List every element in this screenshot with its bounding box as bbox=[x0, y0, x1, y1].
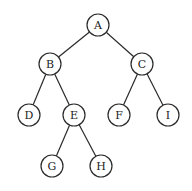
node-b: B bbox=[39, 53, 61, 75]
node-h: H bbox=[90, 155, 112, 177]
node-i: I bbox=[157, 104, 179, 126]
node-d: D bbox=[18, 104, 40, 126]
edge-a-b bbox=[59, 32, 90, 57]
node-g: G bbox=[41, 155, 63, 177]
node-label: A bbox=[93, 19, 103, 32]
tree-edges bbox=[33, 32, 163, 156]
tree-nodes: ABCDEFIGH bbox=[18, 14, 179, 177]
edge-b-d bbox=[33, 74, 46, 105]
node-label: D bbox=[25, 109, 34, 122]
node-label: C bbox=[138, 58, 146, 71]
node-f: F bbox=[108, 104, 130, 126]
node-e: E bbox=[63, 104, 85, 126]
edge-b-e bbox=[55, 74, 70, 105]
node-label: B bbox=[46, 58, 54, 71]
edge-a-c bbox=[106, 32, 134, 56]
edge-c-i bbox=[147, 74, 163, 105]
node-a: A bbox=[87, 14, 109, 36]
node-label: H bbox=[96, 160, 106, 173]
node-label: G bbox=[48, 160, 57, 173]
node-label: E bbox=[70, 109, 78, 122]
node-label: I bbox=[166, 109, 170, 122]
edge-c-f bbox=[124, 74, 138, 105]
node-label: F bbox=[115, 109, 123, 122]
edge-e-h bbox=[79, 125, 96, 157]
node-c: C bbox=[131, 53, 153, 75]
binary-tree-diagram: ABCDEFIGH bbox=[0, 0, 192, 191]
edge-e-g bbox=[56, 125, 69, 156]
